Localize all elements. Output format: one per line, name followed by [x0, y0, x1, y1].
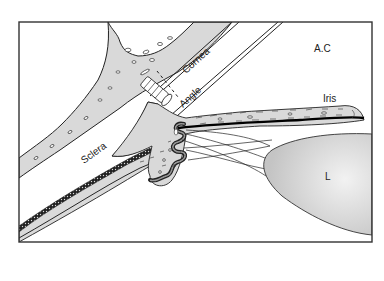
eye-angle-diagram: A.C Cornea Angle Iris Sclera L: [0, 0, 384, 281]
label-sclera: Sclera: [79, 140, 109, 166]
lens: [264, 134, 372, 235]
label-lens: L: [325, 171, 331, 182]
zonule-fibers: [182, 130, 272, 176]
label-angle: Angle: [177, 84, 204, 110]
label-anterior-chamber: A.C: [314, 43, 331, 54]
label-iris: Iris: [323, 93, 336, 104]
